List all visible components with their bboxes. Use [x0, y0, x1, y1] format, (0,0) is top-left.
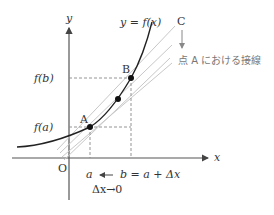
x-axis-label: x: [214, 151, 221, 164]
label-b: B: [122, 63, 130, 76]
label-c: C: [177, 15, 185, 28]
fb-label: f(b): [33, 72, 54, 85]
a-tick-label: a: [86, 168, 93, 181]
label-a: A: [79, 113, 89, 126]
origin-label: O: [58, 162, 67, 175]
secant-lines: [57, 26, 175, 160]
tangent-note: 点 A における接線: [178, 54, 261, 66]
derivative-diagram: y x O y = f(x) A B C f(b) f(a) a b = a +…: [0, 0, 274, 215]
y-axis-label: y: [65, 12, 73, 25]
limit-label: Δx→0: [92, 183, 122, 196]
point-mid: [115, 96, 121, 102]
curve-label: y = f(x): [119, 16, 161, 29]
fa-label: f(a): [33, 121, 53, 134]
b-tick-label: b = a + Δx: [120, 168, 181, 181]
